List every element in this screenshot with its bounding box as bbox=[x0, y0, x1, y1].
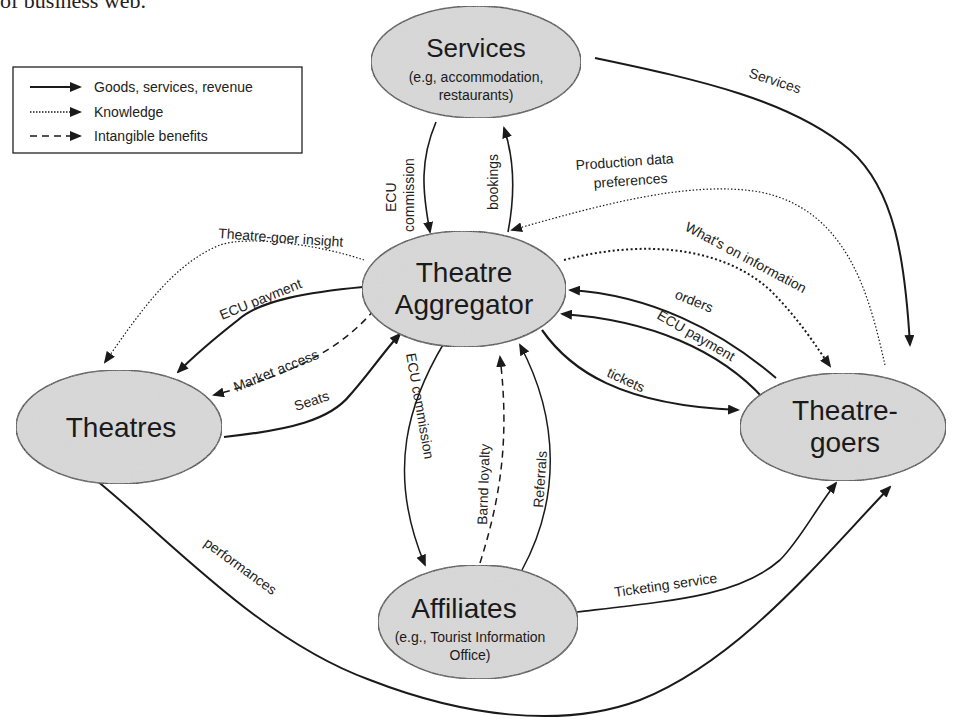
affiliates-subtitle-line1: (e.g., Tourist Information bbox=[395, 629, 546, 645]
legend-label-solid: Goods, services, revenue bbox=[94, 79, 253, 95]
value-network-diagram: of business web. Goods, services, revenu… bbox=[0, 0, 964, 728]
edge-bookings bbox=[504, 128, 513, 232]
node-affiliates[interactable]: Affiliates (e.g., Tourist Information Of… bbox=[378, 565, 578, 679]
label-services: Services bbox=[747, 65, 803, 97]
node-services[interactable]: Services (e.g, accommodation, restaurant… bbox=[371, 6, 581, 118]
node-theatregoers[interactable]: Theatre- goers bbox=[740, 373, 946, 481]
heading-fragment: of business web. bbox=[0, 0, 146, 13]
services-title: Services bbox=[426, 33, 526, 63]
edge-ecu-commission-services bbox=[424, 122, 436, 232]
label-seats: Seats bbox=[292, 388, 331, 414]
label-ecu-commission-services-line1: ECU bbox=[383, 182, 399, 212]
legend: Goods, services, revenue Knowledge Intan… bbox=[13, 67, 302, 153]
label-theatregoer-insight: Theatre-goer insight bbox=[218, 225, 344, 250]
label-bookings: bookings bbox=[485, 154, 501, 210]
edge-services-to-goers bbox=[595, 58, 910, 345]
label-market-access: Market access bbox=[231, 346, 321, 395]
label-ecu-commission-affiliates: ECU commission bbox=[403, 352, 437, 461]
label-brand-loyalty: Barnd loyalty bbox=[474, 444, 493, 525]
services-subtitle-line1: (e.g, accommodation, bbox=[409, 69, 544, 85]
node-theatres[interactable]: Theatres bbox=[16, 370, 222, 484]
affiliates-subtitle-line2: Office) bbox=[450, 647, 491, 663]
node-aggregator[interactable]: Theatre Aggregator bbox=[362, 231, 566, 347]
label-ecu-payment-theatres: ECU payment bbox=[217, 275, 304, 323]
aggregator-title-line2: Aggregator bbox=[395, 289, 534, 320]
label-ecu-commission-services-line2: commission bbox=[401, 158, 417, 232]
aggregator-title-line1: Theatre bbox=[416, 257, 513, 288]
theatregoers-title-line2: goers bbox=[810, 427, 880, 458]
label-production-data-line2: preferences bbox=[593, 170, 668, 191]
label-performances: performances bbox=[201, 534, 280, 597]
theatregoers-title-line1: Theatre- bbox=[792, 395, 898, 426]
affiliates-title: Affiliates bbox=[411, 593, 516, 624]
label-ticketing-service: Ticketing service bbox=[613, 570, 718, 600]
label-whats-on: What's on information bbox=[683, 219, 810, 296]
edge-ecu-payment-goers bbox=[562, 314, 765, 400]
theatres-title: Theatres bbox=[66, 412, 177, 443]
label-orders: orders bbox=[673, 286, 716, 316]
services-subtitle-line2: restaurants) bbox=[439, 87, 514, 103]
legend-label-dashed: Intangible benefits bbox=[94, 128, 208, 144]
edge-orders bbox=[570, 290, 776, 378]
legend-label-dotted: Knowledge bbox=[94, 104, 163, 120]
